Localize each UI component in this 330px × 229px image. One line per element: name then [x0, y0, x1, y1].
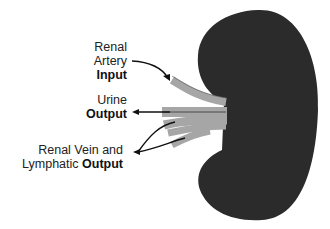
kidney-diagram: [0, 0, 330, 229]
artery-label-emphasis: Input: [96, 68, 127, 82]
vein-label-emphasis: Output: [82, 157, 123, 171]
urine-label-line1: Urine: [86, 93, 127, 107]
vein-label-line2: Lymphatic: [22, 157, 79, 171]
artery-label-line1: Renal: [94, 40, 127, 54]
urine-label-emphasis: Output: [86, 107, 127, 121]
artery-input-arrow: [132, 61, 168, 78]
artery-label-line2: Artery: [94, 54, 127, 68]
renal-vein-label: Renal Vein and Lymphatic Output: [22, 143, 123, 171]
urine-label: Urine Output: [86, 93, 127, 121]
renal-artery-label: Renal Artery Input: [94, 40, 127, 82]
vein-label-line1: Renal Vein and: [22, 143, 123, 157]
